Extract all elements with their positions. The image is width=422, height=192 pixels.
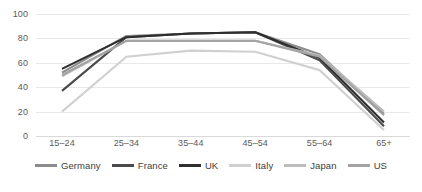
- plot-area: [36, 14, 410, 136]
- x-axis-tick-label: 45–54: [242, 138, 268, 148]
- line-chart: 100806040200 15–2425–3435–4445–5455–6465…: [0, 0, 422, 192]
- legend-item-label: Italy: [255, 160, 273, 171]
- legend-item-germany[interactable]: Germany: [35, 160, 101, 171]
- legend-item-uk[interactable]: UK: [179, 160, 218, 171]
- x-axis: 15–2425–3435–4445–5455–6465+: [36, 138, 410, 154]
- legend-item-france[interactable]: France: [112, 160, 168, 171]
- series-layer: [36, 14, 410, 136]
- legend-item-label: UK: [205, 160, 218, 171]
- y-axis-tick-label: 100: [13, 9, 28, 19]
- legend-item-label: Japan: [310, 160, 336, 171]
- legend-line-swatch-icon: [284, 164, 306, 166]
- x-axis-tick-label: 35–44: [178, 138, 204, 148]
- y-axis-tick-label: 20: [18, 107, 28, 117]
- legend-item-italy[interactable]: Italy: [229, 160, 273, 171]
- legend-line-swatch-icon: [229, 164, 251, 166]
- legend-item-label: Germany: [61, 160, 101, 171]
- y-axis-tick-label: 80: [18, 33, 28, 43]
- x-axis-tick-label: 15–24: [49, 138, 75, 148]
- legend-line-swatch-icon: [179, 164, 201, 166]
- y-axis-tick-label: 40: [18, 82, 28, 92]
- legend-item-japan[interactable]: Japan: [284, 160, 336, 171]
- legend-item-label: France: [138, 160, 168, 171]
- legend-item-us[interactable]: US: [348, 160, 387, 171]
- legend-line-swatch-icon: [112, 164, 134, 166]
- legend-line-swatch-icon: [35, 164, 57, 166]
- chart-legend: GermanyFranceUKItalyJapanUS: [0, 160, 422, 171]
- x-axis-tick-label: 65+: [376, 138, 392, 148]
- x-axis-tick-label: 25–34: [114, 138, 140, 148]
- axis-baseline: [36, 136, 410, 137]
- y-axis: 100806040200: [0, 14, 32, 136]
- y-axis-tick-label: 60: [18, 58, 28, 68]
- x-axis-tick-label: 55–64: [307, 138, 333, 148]
- y-axis-tick-label: 0: [23, 131, 28, 141]
- legend-line-swatch-icon: [348, 164, 370, 166]
- legend-item-label: US: [374, 160, 387, 171]
- series-line-france: [62, 32, 384, 126]
- series-line-italy: [62, 51, 384, 130]
